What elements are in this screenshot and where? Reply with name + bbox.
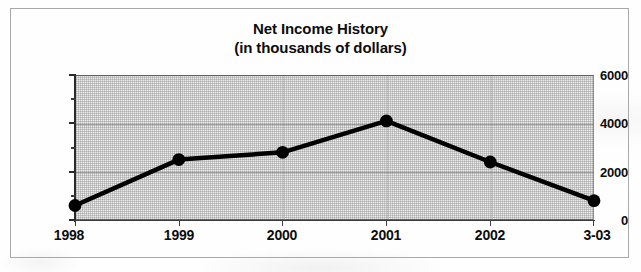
x-axis-label-2002: 2002	[475, 227, 505, 243]
y-tick-5000	[71, 98, 76, 100]
x-tick-2000	[282, 220, 283, 226]
y-axis-label-2000: 2000	[572, 165, 628, 180]
y-tick-1000	[71, 195, 76, 197]
x-axis-line	[74, 220, 595, 221]
y-tick-4000	[69, 122, 76, 124]
y-tick-3000	[71, 147, 76, 149]
vertical-gridline-2001	[387, 76, 388, 220]
x-tick-1998	[75, 220, 76, 226]
plot-area	[75, 75, 594, 220]
gridline-2000	[76, 172, 593, 173]
x-axis-label-2001: 2001	[371, 227, 401, 243]
chart-subtitle: (in thousands of dollars)	[11, 38, 630, 57]
chart-figure-frame: Net Income History (in thousands of doll…	[10, 8, 629, 258]
gridline-4000	[76, 124, 593, 125]
chart-title: Net Income History	[11, 19, 630, 38]
vertical-gridline-2002	[491, 76, 492, 220]
x-axis-label-1998: 1998	[54, 227, 84, 243]
x-tick-3-03	[593, 220, 594, 226]
x-tick-2002	[490, 220, 491, 226]
y-axis-label-6000: 6000	[572, 68, 628, 83]
x-axis-label-1999: 1999	[164, 227, 194, 243]
scanned-page-background: Net Income History (in thousands of doll…	[0, 0, 641, 272]
x-axis-label-3-03: 3-03	[583, 227, 610, 243]
x-tick-2001	[386, 220, 387, 226]
y-tick-2000	[69, 171, 76, 173]
x-axis-label-2000: 2000	[267, 227, 297, 243]
y-tick-6000	[69, 74, 76, 76]
x-tick-1999	[179, 220, 180, 226]
vertical-gridline-1999	[180, 76, 181, 220]
vertical-gridline-2000	[283, 76, 284, 220]
y-axis-label-4000: 4000	[572, 116, 628, 131]
